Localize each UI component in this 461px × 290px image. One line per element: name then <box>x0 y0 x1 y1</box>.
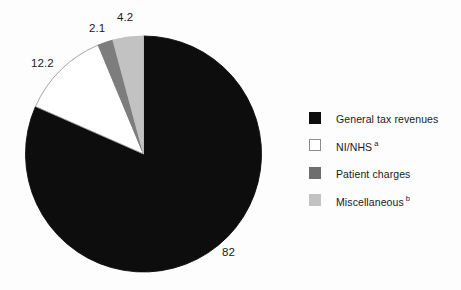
chart-legend: General tax revenues NI/NHSa Patient cha… <box>309 104 459 214</box>
legend-item-ni-nhs: NI/NHSa <box>309 132 459 160</box>
legend-label-patient-charges: Patient charges <box>336 166 412 180</box>
slice-value-label-miscellaneous: 4.2 <box>117 11 133 23</box>
legend-item-miscellaneous: Miscellaneousb <box>309 187 459 215</box>
legend-item-general-tax-revenues: General tax revenues <box>309 104 459 132</box>
pie-chart: 82 12.2 2.1 4.2 General tax revenues NI/… <box>0 0 461 290</box>
legend-item-patient-charges: Patient charges <box>309 159 459 187</box>
legend-swatch-ni-nhs <box>309 139 321 151</box>
legend-footnote-miscellaneous: b <box>406 194 410 203</box>
slice-value-label-patient-charges: 2.1 <box>89 22 105 34</box>
legend-label-general-tax-revenues: General tax revenues <box>336 111 440 125</box>
legend-swatch-general-tax-revenues <box>309 112 321 124</box>
legend-label-text-miscellaneous: Miscellaneous <box>336 195 404 207</box>
legend-label-text-general-tax-revenues: General tax revenues <box>336 113 438 125</box>
legend-label-ni-nhs: NI/NHSa <box>336 139 378 153</box>
slice-value-label-general-tax-revenues: 82 <box>222 246 235 258</box>
legend-label-text-ni-nhs: NI/NHS <box>336 140 372 152</box>
legend-swatch-patient-charges <box>309 167 321 179</box>
slice-value-label-ni-nhs: 12.2 <box>31 57 54 69</box>
legend-swatch-miscellaneous <box>309 194 321 206</box>
legend-label-miscellaneous: Miscellaneousb <box>336 194 410 208</box>
legend-label-text-patient-charges: Patient charges <box>336 168 410 180</box>
legend-footnote-ni-nhs: a <box>374 139 378 148</box>
